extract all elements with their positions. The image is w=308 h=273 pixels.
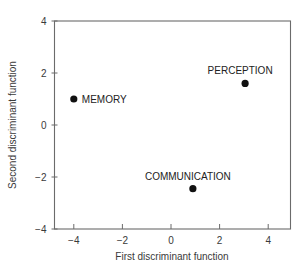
point-marker bbox=[189, 185, 196, 192]
y-tick-label: −4 bbox=[35, 224, 47, 235]
x-tick-label: 2 bbox=[217, 235, 223, 246]
y-tick-label: −2 bbox=[35, 172, 47, 183]
discriminant-scatter-chart: −4−2024 −4−2024 MEMORYPERCEPTIONCOMMUNIC… bbox=[0, 0, 308, 273]
data-point: MEMORY bbox=[70, 94, 127, 105]
plot-border bbox=[55, 21, 291, 229]
data-point: COMMUNICATION bbox=[145, 171, 231, 193]
y-tick-label: 2 bbox=[41, 68, 47, 79]
x-tick-label: 0 bbox=[168, 235, 174, 246]
plot-frame bbox=[55, 21, 291, 229]
x-tick-label: −2 bbox=[117, 235, 129, 246]
data-points: MEMORYPERCEPTIONCOMMUNICATION bbox=[70, 65, 272, 192]
point-label: COMMUNICATION bbox=[145, 171, 231, 182]
y-tick-label: 4 bbox=[41, 16, 47, 27]
y-axis-title: Second discriminant function bbox=[7, 61, 18, 189]
data-point: PERCEPTION bbox=[208, 65, 273, 87]
point-label: MEMORY bbox=[82, 94, 127, 105]
y-tick-label: 0 bbox=[41, 120, 47, 131]
x-tick-label: −4 bbox=[68, 235, 80, 246]
x-axis-title: First discriminant function bbox=[115, 251, 228, 262]
point-label: PERCEPTION bbox=[208, 65, 273, 76]
x-tick-label: 4 bbox=[265, 235, 271, 246]
x-axis-ticks: −4−2024 bbox=[68, 224, 271, 246]
point-marker bbox=[242, 80, 249, 87]
point-marker bbox=[70, 95, 77, 102]
